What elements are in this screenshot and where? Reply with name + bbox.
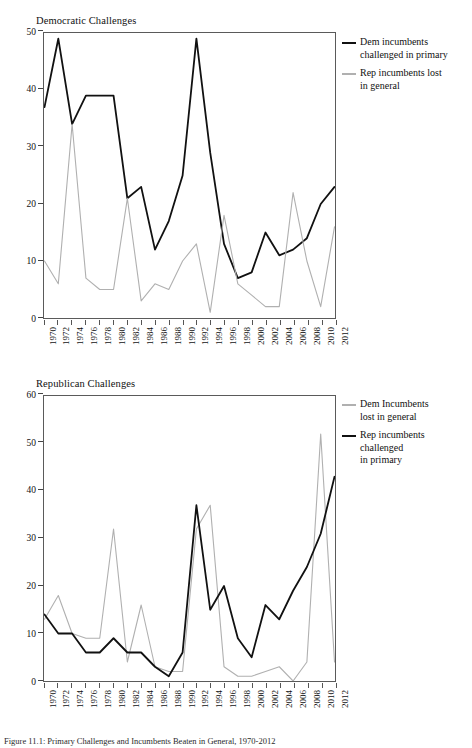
y-axis-tick-label: 50 bbox=[27, 438, 37, 448]
x-axis-tick-label: 1986 bbox=[159, 690, 169, 708]
x-axis-tick-mark bbox=[252, 683, 253, 688]
y-axis-tick: 50 bbox=[27, 26, 44, 38]
y-axis-democratic: 01020304050 bbox=[0, 32, 43, 319]
x-axis-tick-mark bbox=[336, 683, 337, 688]
x-axis-tick-label: 1984 bbox=[145, 690, 155, 708]
x-axis-tick-label: 1996 bbox=[228, 690, 238, 708]
chart-panel-democratic: Democratic Challenges 01020304050 197019… bbox=[0, 0, 472, 372]
x-axis-tick-label: 2000 bbox=[256, 690, 266, 708]
x-axis-tick-label: 2004 bbox=[284, 690, 294, 708]
x-axis-tick-mark bbox=[155, 683, 156, 688]
y-axis-tick-label: 50 bbox=[27, 27, 37, 37]
x-axis-tick-label: 2008 bbox=[312, 690, 322, 708]
chart-title-republican: Republican Challenges bbox=[36, 378, 135, 389]
x-axis-tick-mark bbox=[210, 683, 211, 688]
y-axis-tick: 40 bbox=[27, 485, 44, 497]
x-axis-tick-label: 1992 bbox=[200, 690, 210, 708]
x-axis-tick-label: 2006 bbox=[298, 690, 308, 708]
x-axis-tick-label: 1984 bbox=[145, 327, 155, 345]
x-axis-tick-label: 1978 bbox=[103, 690, 113, 708]
x-axis-tick-label: 1986 bbox=[159, 327, 169, 345]
x-axis-tick-label: 1982 bbox=[131, 327, 141, 345]
y-axis-tick-label: 0 bbox=[31, 677, 36, 687]
x-axis-tick-label: 1990 bbox=[187, 690, 197, 708]
figure-root: Democratic Challenges 01020304050 197019… bbox=[0, 0, 472, 748]
series-line bbox=[44, 124, 334, 312]
legend-line-swatch bbox=[342, 42, 356, 44]
x-axis-tick-label: 1980 bbox=[117, 327, 127, 345]
x-axis-tick-mark bbox=[85, 320, 86, 325]
x-axis-tick-mark bbox=[141, 320, 142, 325]
x-axis-tick-label: 1988 bbox=[173, 327, 183, 345]
y-axis-tick: 0 bbox=[31, 676, 43, 688]
legend-item-label: Rep incumbents lost in general bbox=[360, 67, 442, 92]
y-axis-tick-label: 60 bbox=[27, 390, 37, 400]
x-axis-tick-label: 1972 bbox=[61, 327, 71, 345]
y-axis-tick: 40 bbox=[27, 83, 44, 95]
figure-caption: Figure 11.1: Primary Challenges and Incu… bbox=[4, 736, 468, 747]
legend-line-swatch bbox=[342, 404, 356, 406]
x-axis-tick-mark bbox=[196, 683, 197, 688]
x-axis-tick-label: 1998 bbox=[242, 690, 252, 708]
x-axis-tick-label: 2004 bbox=[284, 327, 294, 345]
y-axis-tick-label: 20 bbox=[27, 581, 37, 591]
y-axis-tick-label: 40 bbox=[27, 485, 37, 495]
x-axis-tick-label: 1996 bbox=[228, 327, 238, 345]
x-axis-tick-mark bbox=[57, 320, 58, 325]
chart-panel-republican: Republican Challenges 0102030405060 1970… bbox=[0, 368, 472, 728]
legend-item-label: Dem Incumbents lost in general bbox=[360, 398, 429, 423]
x-axis-tick-label: 1976 bbox=[89, 690, 99, 708]
y-axis-tick-label: 20 bbox=[27, 199, 37, 209]
series-line bbox=[44, 434, 334, 681]
x-axis-tick-mark bbox=[308, 320, 309, 325]
x-axis-tick-mark bbox=[127, 320, 128, 325]
x-axis-tick-mark bbox=[113, 320, 114, 325]
series-line bbox=[44, 477, 334, 677]
y-axis-tick: 10 bbox=[27, 628, 44, 640]
x-axis-tick-mark bbox=[169, 683, 170, 688]
x-axis-tick-label: 2006 bbox=[298, 327, 308, 345]
x-axis-tick-label: 2002 bbox=[270, 327, 280, 345]
legend-line-swatch bbox=[342, 435, 356, 437]
x-axis-tick-label: 1994 bbox=[214, 327, 224, 345]
x-axis-tick-label: 1972 bbox=[61, 690, 71, 708]
x-axis-tick-label: 1970 bbox=[48, 327, 58, 345]
x-axis-tick-mark bbox=[280, 320, 281, 325]
y-axis-tick: 0 bbox=[31, 313, 43, 325]
x-axis-tick-label: 2002 bbox=[270, 690, 280, 708]
x-axis-tick-label: 1974 bbox=[75, 327, 85, 345]
x-axis-tick-label: 2000 bbox=[256, 327, 266, 345]
legend-item-dem-primary: Dem incumbents challenged in primary bbox=[342, 36, 472, 61]
x-axis-tick-label: 2008 bbox=[312, 327, 322, 345]
x-axis-tick-mark bbox=[224, 683, 225, 688]
x-axis-tick-mark bbox=[99, 320, 100, 325]
x-axis-tick-mark bbox=[71, 320, 72, 325]
x-axis-tick-mark bbox=[266, 683, 267, 688]
x-axis-tick-mark bbox=[155, 320, 156, 325]
y-axis-tick: 60 bbox=[27, 389, 44, 401]
y-axis-tick-label: 10 bbox=[27, 256, 37, 266]
x-axis-tick-mark bbox=[280, 683, 281, 688]
x-axis-tick-mark bbox=[183, 320, 184, 325]
x-axis-tick-mark bbox=[169, 320, 170, 325]
x-axis-tick-label: 1970 bbox=[48, 690, 58, 708]
x-axis-tick-mark bbox=[183, 683, 184, 688]
y-axis-tick-label: 0 bbox=[31, 314, 36, 324]
y-axis-republican: 0102030405060 bbox=[0, 395, 43, 682]
x-axis-tick-mark bbox=[141, 683, 142, 688]
x-axis-republican: 1970197219741976197819801982198419861988… bbox=[43, 683, 336, 743]
y-axis-tick: 30 bbox=[27, 141, 44, 153]
x-axis-tick-label: 2010 bbox=[326, 327, 336, 345]
y-axis-tick: 20 bbox=[27, 198, 44, 210]
plot-area-republican bbox=[43, 395, 336, 682]
x-axis-tick-mark bbox=[196, 320, 197, 325]
x-axis-tick-mark bbox=[238, 320, 239, 325]
x-axis-tick-label: 1998 bbox=[242, 327, 252, 345]
legend-item-rep-general: Rep incumbents lost in general bbox=[342, 67, 472, 92]
x-axis-tick-mark bbox=[266, 320, 267, 325]
x-axis-tick-mark bbox=[224, 320, 225, 325]
x-axis-tick-mark bbox=[336, 320, 337, 325]
x-axis-tick-mark bbox=[308, 683, 309, 688]
x-axis-tick-label: 1994 bbox=[214, 690, 224, 708]
x-axis-tick-label: 2012 bbox=[340, 690, 350, 708]
